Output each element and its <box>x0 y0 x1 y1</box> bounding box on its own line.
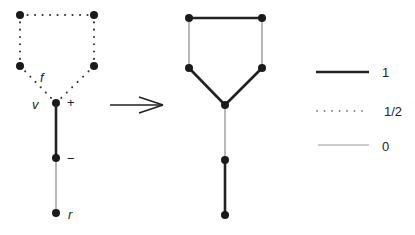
node-left-r <box>52 209 60 217</box>
label-v: v <box>32 97 40 112</box>
label-f: f <box>40 70 45 85</box>
legend-label-1: 1 <box>382 65 389 80</box>
diagram-canvas: f v + − r 1 1/2 0 <box>0 0 415 235</box>
node-right-b <box>258 14 266 22</box>
legend-label-half: 1/2 <box>384 104 402 119</box>
legend-label-0: 0 <box>382 139 389 154</box>
node-right-v <box>221 101 229 109</box>
node-left-v <box>52 99 60 107</box>
node-right-r <box>221 211 229 219</box>
label-r: r <box>68 207 73 222</box>
node-right-m <box>221 156 229 164</box>
legend: 1 1/2 0 <box>316 65 402 154</box>
node-left-b <box>90 11 98 19</box>
node-left-m <box>52 154 60 162</box>
right-arrow-icon <box>110 97 163 113</box>
node-right-c <box>185 64 193 72</box>
label-plus: + <box>67 95 75 110</box>
node-left-d <box>90 62 98 70</box>
node-right-a <box>185 14 193 22</box>
right-graph <box>185 14 266 219</box>
left-graph: f v + − r <box>16 11 98 222</box>
label-minus: − <box>67 151 75 166</box>
node-left-c <box>16 62 24 70</box>
edge-left-d-v <box>56 66 94 103</box>
edge-right-c-v <box>189 68 225 105</box>
node-left-a <box>16 11 24 19</box>
node-right-d <box>258 64 266 72</box>
edge-right-d-v <box>225 68 262 105</box>
